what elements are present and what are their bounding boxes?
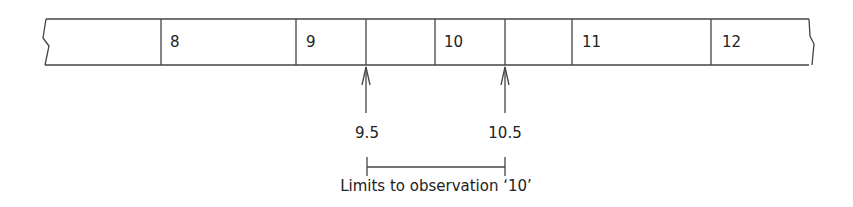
boundary-label-upper: 10.5 <box>488 126 521 141</box>
cell-label-8: 8 <box>170 35 180 50</box>
cell-label-12: 12 <box>722 35 741 50</box>
limits-bracket <box>367 157 505 176</box>
right-break-edge <box>809 19 814 65</box>
strip-diagram <box>0 0 853 207</box>
cell-label-11: 11 <box>582 35 601 50</box>
arrow-up-icon <box>501 67 509 113</box>
caption: Limits to observation ‘10’ <box>340 179 532 194</box>
arrow-up-icon <box>362 67 370 113</box>
cell-label-9: 9 <box>306 35 316 50</box>
boundary-label-lower: 9.5 <box>355 126 379 141</box>
left-break-edge <box>43 19 49 65</box>
cell-label-10: 10 <box>444 35 463 50</box>
